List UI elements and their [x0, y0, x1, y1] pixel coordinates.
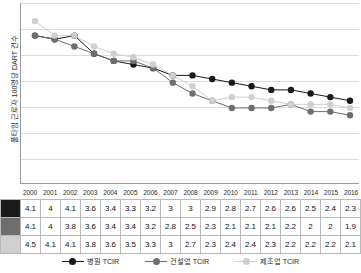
table-year-header: 2010	[221, 189, 241, 196]
series-data-point	[111, 58, 117, 64]
series-data-point	[288, 101, 294, 107]
series-data-point	[307, 101, 313, 107]
table-header-row: 2000200120022003200420052006200720082009…	[0, 186, 361, 199]
table-year-header: 2007	[160, 189, 180, 196]
series-data-point	[91, 50, 97, 56]
series-data-point	[32, 18, 38, 24]
table-year-header: 2001	[40, 189, 60, 196]
series-data-point	[248, 105, 254, 111]
table-year-header: 2002	[60, 189, 80, 196]
y-axis-title: 풀타임 근로자 100명당 DART 건수	[9, 9, 19, 169]
series-data-point	[71, 32, 77, 38]
series-data-point	[268, 105, 274, 111]
series-data-point	[51, 32, 57, 38]
table-cell: 3.6	[81, 200, 101, 218]
series-data-point	[327, 101, 333, 107]
table-year-header: 2012	[261, 189, 281, 196]
series-data-point	[209, 76, 215, 82]
table-cell: 1.9	[341, 218, 361, 236]
table-cell: 2.6	[261, 200, 281, 218]
table-cell: 3.3	[121, 200, 141, 218]
table-cell: 2	[321, 218, 341, 236]
series-data-point	[32, 32, 38, 38]
series-data-point	[189, 72, 195, 78]
table-cell: 2.4	[321, 200, 341, 218]
series-data-point	[229, 105, 235, 111]
series-data-point	[248, 83, 254, 89]
table-cell: 4.1	[21, 218, 41, 236]
table-cell: 2.8	[161, 218, 181, 236]
series-color-swatch	[1, 200, 21, 218]
legend-label: 건설업 TCIR	[170, 256, 209, 266]
table-cell: 2.5	[181, 218, 201, 236]
table-cell: 4.1	[61, 200, 81, 218]
table-cell: 4	[41, 200, 61, 218]
table-year-header: 2014	[301, 189, 321, 196]
table-cell: 4.1	[21, 200, 41, 218]
table-cell: 3.4	[121, 218, 141, 236]
series-data-point	[229, 79, 235, 85]
series-color-swatch	[1, 218, 21, 236]
table-year-header: 2011	[241, 189, 261, 196]
legend-item[interactable]: 병원 TCIR	[62, 256, 119, 266]
chart-legend: 병원 TCIR건설업 TCIR제조업 TCIR	[0, 249, 361, 273]
table-cell: 3	[161, 200, 181, 218]
legend-label: 제조업 TCIR	[260, 256, 299, 266]
y-axis-title-area: 풀타임 근로자 100명당 DART 건수	[0, 0, 20, 186]
table-cell: 2.5	[301, 200, 321, 218]
series-data-point	[307, 90, 313, 96]
table-cell: 2.1	[261, 218, 281, 236]
table-cell: 2.2	[281, 218, 301, 236]
series-data-point	[111, 50, 117, 56]
series-data-point	[347, 105, 353, 111]
series-data-point	[248, 94, 254, 100]
table-row: 4.144.13.63.43.33.2332.92.82.72.62.62.52…	[1, 200, 361, 218]
table-cell: 3.4	[101, 200, 121, 218]
table-cell: 3.2	[141, 200, 161, 218]
series-data-point	[209, 98, 215, 104]
table-cell: 2.6	[281, 200, 301, 218]
series-data-point	[347, 112, 353, 118]
table-cell: 3	[181, 200, 201, 218]
table-year-header: 2004	[100, 189, 120, 196]
table-year-header: 2009	[201, 189, 221, 196]
table-cell: 2.1	[241, 218, 261, 236]
legend-marker-icon	[145, 257, 167, 266]
table-year-header: 2003	[80, 189, 100, 196]
table-year-header: 2005	[120, 189, 140, 196]
series-data-point	[170, 72, 176, 78]
table-cell: 3.2	[141, 218, 161, 236]
series-data-point	[347, 98, 353, 104]
table-cell: 2	[301, 218, 321, 236]
table-year-header: 2000	[20, 189, 40, 196]
plot-area	[20, 3, 359, 184]
legend-label: 병원 TCIR	[87, 256, 119, 266]
table-cell: 4	[41, 218, 61, 236]
series-data-point	[268, 87, 274, 93]
table-cell: 3.8	[61, 218, 81, 236]
table-cell: 2.8	[221, 200, 241, 218]
series-data-point	[288, 87, 294, 93]
series-lines	[21, 3, 360, 184]
table-cell: 2.7	[241, 200, 261, 218]
legend-item[interactable]: 제조업 TCIR	[235, 256, 299, 266]
table-cell: 3.6	[81, 218, 101, 236]
series-data-point	[130, 54, 136, 60]
series-data-point	[189, 83, 195, 89]
table-row: 4.143.83.63.43.43.22.82.52.32.12.12.12.2…	[1, 218, 361, 236]
table-year-header: 2013	[281, 189, 301, 196]
legend-item[interactable]: 건설업 TCIR	[145, 256, 209, 266]
table-cell: 2.3	[341, 200, 361, 218]
series-data-point	[150, 61, 156, 67]
legend-marker-icon	[62, 257, 84, 266]
table-cell: 2.3	[201, 218, 221, 236]
table-year-header: 2015	[321, 189, 341, 196]
legend-marker-icon	[235, 257, 257, 266]
table-cell: 2.9	[201, 200, 221, 218]
table-year-header: 2006	[140, 189, 160, 196]
series-data-point	[189, 90, 195, 96]
series-data-point	[307, 108, 313, 114]
table-cell: 2.1	[221, 218, 241, 236]
table-year-header: 2008	[181, 189, 201, 196]
series-data-point	[268, 98, 274, 104]
